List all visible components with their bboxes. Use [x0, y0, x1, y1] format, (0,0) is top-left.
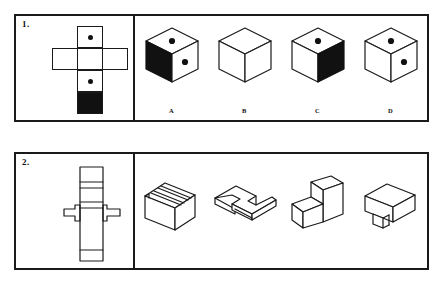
dice-net [52, 26, 128, 114]
option-c-label: C [281, 107, 354, 114]
pip-right [181, 59, 187, 65]
option-d[interactable]: D [354, 16, 427, 120]
solid-option-b [210, 178, 280, 240]
net-cell-top [77, 26, 103, 48]
solid-option-d [359, 178, 423, 240]
question-1-panel: 1. [14, 14, 429, 122]
pip-right [400, 59, 406, 65]
pip-top [387, 38, 393, 44]
cube-option-c [287, 24, 349, 96]
cube-option-d [360, 24, 422, 96]
stepped-block-net [44, 162, 140, 262]
question-1-prompt-area [16, 16, 133, 120]
question-1-options-area: A B [135, 16, 427, 120]
option-b[interactable] [208, 154, 281, 268]
option-c[interactable]: C [281, 16, 354, 120]
net-cell-left-arm [52, 48, 78, 70]
question-2-prompt-area [16, 154, 133, 268]
option-d-label: D [354, 107, 427, 114]
pip-top [168, 38, 174, 44]
net-vertical-strip [80, 167, 103, 261]
solid-option-a [139, 176, 205, 242]
worksheet-sheet: 1. [0, 0, 443, 284]
cube-option-b [214, 24, 276, 96]
question-2-options-area [135, 154, 427, 268]
net-cell-right-arm [102, 48, 128, 70]
option-a-label: A [135, 107, 208, 114]
question-2-panel: 2. [14, 152, 429, 270]
option-a[interactable] [135, 154, 208, 268]
net-cell-center [77, 48, 103, 70]
net-cell-bottom-black [77, 92, 103, 114]
net-pip [88, 79, 93, 84]
net-pip [88, 35, 93, 40]
pip-top [314, 38, 320, 44]
option-c[interactable] [281, 154, 354, 268]
option-d[interactable] [354, 154, 427, 268]
option-b[interactable]: B [208, 16, 281, 120]
net-cell-lower [77, 70, 103, 92]
option-a[interactable]: A [135, 16, 208, 120]
solid-option-c [287, 174, 349, 242]
cube-option-a [141, 24, 203, 96]
option-b-label: B [208, 107, 281, 114]
